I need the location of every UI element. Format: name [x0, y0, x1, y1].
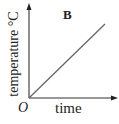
chart-title: B [63, 7, 72, 23]
y-axis-arrow-icon [27, 3, 32, 10]
series-line-b [29, 24, 105, 98]
temperature-time-chart: temperature °C time O B [0, 0, 119, 124]
x-axis-label: time [55, 100, 82, 117]
y-axis-label: temperature °C [6, 11, 22, 96]
origin-label: O [18, 100, 28, 116]
x-axis-arrow-icon [111, 96, 118, 101]
